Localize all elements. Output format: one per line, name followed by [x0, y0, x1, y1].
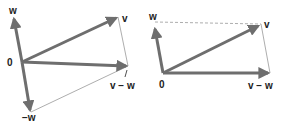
v-minus-w-label-pointer: [125, 70, 127, 77]
w-to-v-dashed-line: [155, 22, 261, 24]
w-vector-arrow: [14, 19, 22, 62]
right-v-label: v: [264, 19, 270, 30]
v-vector-arrow: [22, 18, 116, 62]
right-diagram: 0 w v v − w: [148, 11, 273, 91]
left-v-minus-w-label: v − w: [110, 80, 135, 91]
left-diagram: 0 w v v − w −w: [7, 5, 135, 123]
vector-subtraction-diagram: 0 w v v − w −w 0 w v v − w: [0, 0, 282, 123]
v-to-v-minus-w-thin-line: [118, 17, 128, 66]
right-origin-label: 0: [159, 79, 165, 90]
w-vector-arrow: [155, 29, 163, 73]
neg-w-vector-arrow: [22, 62, 30, 110]
v-vector-arrow: [163, 26, 258, 73]
left-v-label: v: [122, 13, 128, 24]
right-w-label: w: [148, 11, 157, 22]
right-v-minus-w-label: v − w: [248, 80, 273, 91]
v-minus-w-vector-arrow: [22, 62, 126, 66]
v-to-v-minus-w-thin-line: [261, 24, 270, 73]
left-neg-w-label: −w: [22, 112, 36, 123]
left-w-label: w: [8, 5, 17, 16]
left-origin-label: 0: [7, 57, 13, 68]
